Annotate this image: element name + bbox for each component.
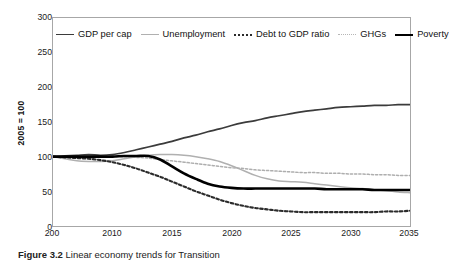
x-tick-label: 2035 (389, 229, 429, 238)
legend-label: Unemployment (163, 29, 226, 39)
plot-area (52, 17, 411, 227)
y-tick-label: 50 (26, 188, 52, 197)
legend-item-gdp-per-cap: GDP per cap (56, 29, 132, 39)
y-tick-label: 100 (26, 153, 52, 162)
x-tick-label: 2015 (152, 229, 192, 238)
legend-label: Debt to GDP ratio (256, 29, 329, 39)
chart-legend: GDP per cap Unemployment Debt to GDP rat… (56, 29, 449, 39)
legend-swatch-line-icon (141, 30, 159, 38)
legend-label: Poverty (417, 29, 449, 39)
x-tick-label: 200 (32, 229, 72, 238)
legend-label: GHGs (360, 29, 386, 39)
legend-swatch-bold-line-icon (395, 30, 413, 38)
legend-item-unemployment: Unemployment (141, 29, 226, 39)
y-tick-label: 300 (26, 13, 52, 22)
x-tick-label: 2010 (92, 229, 132, 238)
legend-swatch-dashed-icon (234, 30, 252, 38)
legend-item-debt-to-gdp-ratio: Debt to GDP ratio (234, 29, 329, 39)
x-tick-label: 2025 (271, 229, 311, 238)
y-tick-label: 200 (26, 83, 52, 92)
y-axis-tick-labels: 300 250 200 150 100 50 0 (18, 0, 52, 260)
legend-label: GDP per cap (78, 29, 132, 39)
series-line (53, 105, 410, 157)
x-tick-label: 2030 (331, 229, 371, 238)
figure-caption: Figure 3.2 Linear economy trends for Tra… (18, 249, 220, 260)
figure-caption-label: Figure 3.2 (18, 249, 63, 260)
chart-lines (53, 18, 410, 226)
y-tick-label: 250 (26, 48, 52, 57)
legend-swatch-line-icon (56, 30, 74, 38)
figure-caption-text: Linear economy trends for Transition (66, 249, 220, 260)
legend-item-poverty: Poverty (395, 29, 449, 39)
y-tick-label: 150 (26, 118, 52, 127)
legend-swatch-dotted-icon (338, 30, 356, 38)
x-tick-label: 2020 (212, 229, 252, 238)
legend-item-ghgs: GHGs (338, 29, 386, 39)
